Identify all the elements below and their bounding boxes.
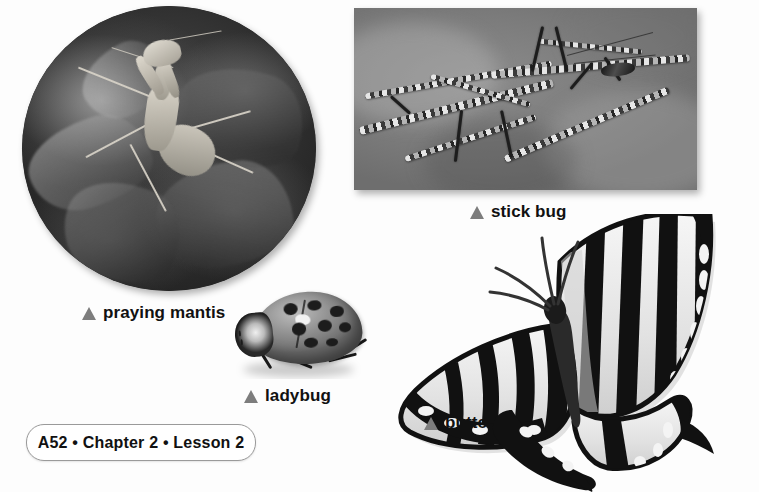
ladybug-head bbox=[233, 311, 275, 358]
caption-label: praying mantis bbox=[103, 303, 225, 323]
caption-stick-bug: stick bug bbox=[470, 202, 567, 222]
page-footer-pill: A52 • Chapter 2 • Lesson 2 bbox=[26, 424, 256, 461]
ladybug-spot bbox=[339, 322, 352, 333]
triangle-marker-icon bbox=[244, 390, 258, 403]
ladybug-spot bbox=[291, 322, 306, 335]
caption-label: stick bug bbox=[491, 202, 567, 222]
praying-mantis-image bbox=[22, 6, 316, 291]
butterfly-photo bbox=[392, 214, 722, 492]
triangle-marker-icon bbox=[82, 307, 96, 320]
textbook-page: praying mantis stick bug ladybug butterf… bbox=[0, 0, 759, 492]
ladybug-head-marking bbox=[240, 339, 243, 344]
ladybug-spot bbox=[326, 337, 339, 346]
stick-bug-photo bbox=[354, 8, 697, 190]
praying-mantis-photo bbox=[22, 6, 316, 291]
ladybug-spot bbox=[283, 302, 298, 315]
praying-mantis-body bbox=[22, 6, 316, 291]
page-footer-text: A52 • Chapter 2 • Lesson 2 bbox=[38, 434, 245, 452]
ladybug-head-marking bbox=[238, 330, 241, 336]
ladybug-photo bbox=[226, 284, 371, 379]
ladybug-spot bbox=[303, 337, 318, 348]
ladybug-spot bbox=[330, 305, 344, 317]
triangle-marker-icon bbox=[470, 206, 484, 219]
ladybug-spot bbox=[318, 319, 333, 332]
butterfly-image bbox=[392, 214, 722, 492]
ladybug-spot bbox=[307, 299, 321, 311]
caption-praying-mantis: praying mantis bbox=[82, 303, 225, 323]
caption-label: butterfly bbox=[445, 413, 514, 433]
caption-ladybug: ladybug bbox=[244, 386, 331, 406]
mantis-antenna bbox=[169, 30, 221, 40]
stick-bug-image bbox=[354, 8, 697, 190]
butterfly-upper-wing bbox=[559, 214, 722, 440]
caption-butterfly: butterfly bbox=[424, 413, 514, 433]
caption-label: ladybug bbox=[265, 386, 331, 406]
mantis-head bbox=[140, 36, 183, 69]
triangle-marker-icon bbox=[424, 417, 438, 430]
